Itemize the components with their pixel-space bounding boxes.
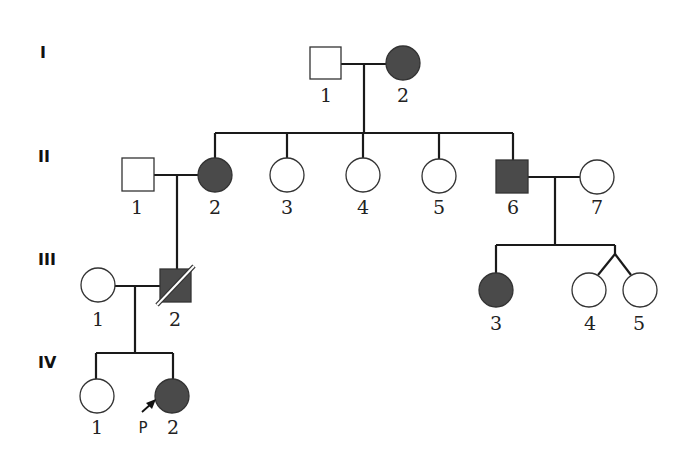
individual-iii4-number: 4	[584, 312, 596, 334]
individual-iii2-number: 2	[169, 308, 181, 330]
individual-iii1-number: 1	[92, 308, 104, 330]
generation-label-ii: II	[38, 147, 50, 166]
individual-ii2-female-affected	[198, 158, 232, 192]
individual-ii6-number: 6	[507, 196, 519, 218]
generation-label-iv: IV	[38, 353, 57, 372]
individual-iii5-female-unaffected	[623, 273, 657, 307]
twin-line-iii4	[598, 254, 615, 275]
twin-line-iii5	[615, 254, 631, 275]
generation-label-i: I	[40, 43, 46, 62]
individual-iii4-female-unaffected	[572, 273, 606, 307]
individual-i1-male-unaffected	[310, 47, 341, 79]
individual-ii5-female-unaffected	[422, 159, 456, 193]
individual-iii3-number: 3	[490, 312, 502, 334]
individual-ii5-number: 5	[433, 196, 445, 218]
individual-ii4-female-unaffected	[346, 158, 380, 192]
individual-ii4-number: 4	[357, 196, 369, 218]
individual-i1-number: 1	[320, 84, 332, 106]
individual-ii1-male-unaffected	[122, 158, 154, 191]
individual-iv2-number: 2	[167, 416, 179, 438]
pedigree-diagram: I II III IV 1 2 1 2 3 4 5 6 7 1 2 3 4 5	[0, 0, 683, 463]
individual-ii2-number: 2	[209, 196, 221, 218]
individual-ii7-female-unaffected	[580, 160, 614, 194]
generation-label-iii: III	[38, 250, 56, 269]
individual-ii6-male-affected	[496, 160, 528, 193]
proband-marker: P	[138, 419, 147, 437]
individual-i2-female-affected	[386, 46, 420, 80]
individual-iv2-female-affected-proband	[155, 379, 189, 413]
individual-iii3-female-affected	[479, 273, 513, 307]
individual-i2-number: 2	[397, 84, 409, 106]
individual-ii3-female-unaffected	[270, 158, 304, 192]
individual-iv1-number: 1	[91, 416, 103, 438]
individual-ii1-number: 1	[131, 196, 143, 218]
individual-iii5-number: 5	[633, 312, 645, 334]
individual-iii1-female-unaffected	[81, 268, 115, 302]
individual-ii3-number: 3	[281, 196, 293, 218]
individual-iv1-female-unaffected	[80, 379, 114, 413]
individual-ii7-number: 7	[591, 196, 603, 218]
